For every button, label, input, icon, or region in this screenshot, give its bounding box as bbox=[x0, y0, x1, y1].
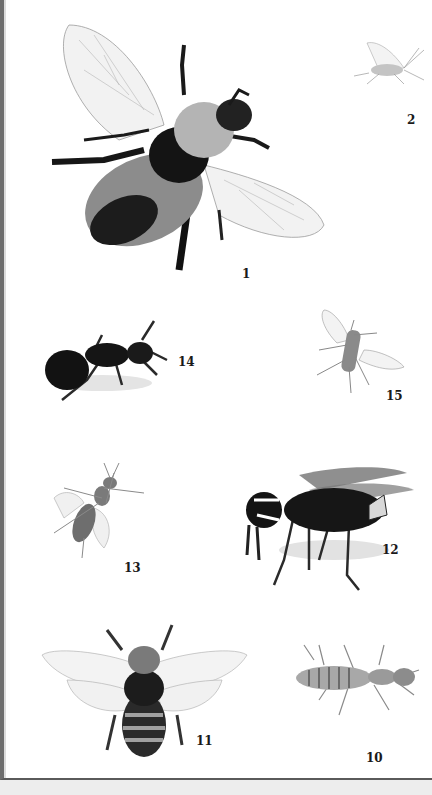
figure-1-bumblebee bbox=[44, 15, 334, 275]
figure-label-11: 11 bbox=[196, 735, 213, 747]
figure-label-15: 15 bbox=[386, 390, 403, 402]
winged-aphid-illustration bbox=[349, 38, 429, 88]
honeybee-illustration bbox=[37, 620, 252, 755]
illustration-plate: 1 2 14 15 bbox=[0, 0, 432, 780]
figure-12-hornet bbox=[239, 465, 419, 590]
figure-15-fly bbox=[309, 305, 409, 400]
figure-13-small-wasp bbox=[44, 458, 154, 558]
figure-label-1: 1 bbox=[242, 268, 250, 280]
page-background-band bbox=[0, 780, 432, 795]
ant-illustration bbox=[42, 315, 182, 410]
figure-label-12: 12 bbox=[382, 544, 399, 556]
bumblebee-illustration bbox=[44, 15, 334, 275]
figure-label-10: 10 bbox=[366, 752, 383, 764]
figure-label-14: 14 bbox=[178, 356, 195, 368]
fly-illustration bbox=[309, 305, 409, 400]
figure-2-winged-aphid bbox=[349, 38, 429, 88]
figure-11-honeybee bbox=[37, 620, 252, 755]
figure-label-2: 2 bbox=[407, 114, 415, 126]
termite-illustration bbox=[294, 640, 424, 720]
figure-10-termite bbox=[294, 640, 424, 720]
figure-14-ant bbox=[42, 315, 182, 410]
small-wasp-illustration bbox=[44, 458, 154, 558]
hornet-illustration bbox=[239, 465, 419, 590]
figure-label-13: 13 bbox=[124, 562, 141, 574]
